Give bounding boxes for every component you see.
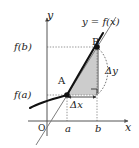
point-a-label: A [58, 76, 65, 86]
x-tick-label-b: b [95, 124, 101, 134]
y-tick-label-fb: f(b) [14, 42, 32, 52]
delta-y-label: Δy [105, 66, 118, 76]
y-tick-label-fa: f(a) [14, 90, 31, 100]
x-axis-label: x [125, 122, 131, 133]
figure-container: y x O f(b) f(a) a b y = f(x) A B Δy Δx [0, 0, 139, 148]
y-axis-label: y [47, 10, 53, 21]
delta-x-label: Δx [70, 100, 83, 110]
point-a-dot [64, 92, 70, 98]
origin-label: O [38, 124, 45, 133]
x-tick-label-a: a [65, 124, 71, 134]
point-b-label: B [92, 37, 99, 47]
curve-equation-label: y = f(x) [82, 17, 120, 27]
